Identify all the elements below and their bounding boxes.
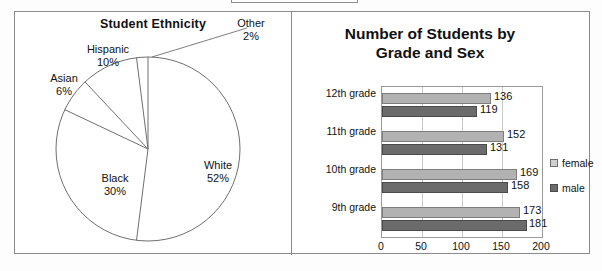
pie-label-white-name: White (204, 159, 232, 171)
legend-label-female: female (562, 157, 594, 169)
pie-chart-panel: Student Ethnicity Hispanic (15, 12, 291, 255)
bar-chart-title: Number of Students by Grade and Sex (300, 24, 560, 62)
pie-label-other-value: 2% (227, 30, 275, 43)
pie-label-other-name: Other (237, 17, 265, 29)
pie-label-asian-name: Asian (50, 72, 78, 84)
pie-label-hispanic-name: Hispanic (87, 43, 129, 55)
legend-item-female: female (550, 157, 594, 169)
bar-value-10th-female: 169 (520, 166, 538, 178)
bar-10th-male (382, 182, 508, 193)
legend-label-male: male (562, 182, 585, 194)
bar-value-10th-male: 158 (511, 179, 529, 191)
bar-group-11th: 11th grade 152 131 (382, 125, 542, 163)
category-label-10th: 10th grade (296, 163, 376, 175)
category-label-11th: 11th grade (296, 125, 376, 137)
bar-chart-title-line1: Number of Students by (300, 24, 560, 43)
bar-group-10th: 10th grade 169 158 (382, 163, 542, 201)
pie-label-hispanic-value: 10% (75, 56, 141, 69)
xtick-200: 200 (532, 240, 550, 252)
bar-9th-female (382, 207, 520, 218)
legend-swatch-male-icon (550, 184, 558, 192)
pie-label-black-name: Black (102, 172, 129, 184)
bar-12th-female (382, 93, 491, 104)
bar-chart-legend: female male (550, 157, 594, 207)
bar-12th-male (382, 106, 477, 117)
figure-frame: Student Ethnicity Hispanic (14, 11, 590, 254)
pie-label-black: Black 30% (87, 172, 143, 197)
bar-9th-male (382, 220, 527, 231)
bar-value-9th-female: 173 (523, 204, 541, 216)
bar-chart-x-axis: 0 50 100 150 200 (381, 240, 543, 256)
cut-off-box-above (231, 0, 358, 3)
scanned-figure-page: Student Ethnicity Hispanic (0, 0, 602, 271)
pie-label-white: White 52% (190, 159, 246, 184)
xtick-100: 100 (452, 240, 470, 252)
pie-label-black-value: 30% (87, 185, 143, 198)
legend-item-male: male (550, 182, 594, 194)
bar-value-11th-male: 131 (490, 141, 508, 153)
bar-chart-title-line2: Grade and Sex (300, 43, 560, 62)
pie-chart-graphic (15, 12, 291, 255)
pie-label-other: Other 2% (227, 17, 275, 42)
bar-value-11th-female: 152 (507, 128, 525, 140)
pie-label-hispanic: Hispanic 10% (75, 43, 141, 68)
xtick-0: 0 (378, 240, 384, 252)
pie-label-asian: Asian 6% (37, 72, 91, 97)
bar-10th-female (382, 169, 517, 180)
bar-value-12th-female: 136 (494, 90, 512, 102)
pie-label-white-value: 52% (190, 172, 246, 185)
bar-value-9th-male: 181 (529, 217, 547, 229)
category-label-12th: 12th grade (296, 87, 376, 99)
bar-value-12th-male: 119 (480, 103, 498, 115)
category-label-9th: 9th grade (296, 201, 376, 213)
bar-11th-male (382, 144, 487, 155)
bar-group-9th: 9th grade 173 181 (382, 201, 542, 239)
xtick-50: 50 (415, 240, 427, 252)
xtick-150: 150 (492, 240, 510, 252)
bar-chart-panel: Number of Students by Grade and Sex 12th… (292, 12, 591, 255)
bar-group-12th: 12th grade 136 119 (382, 87, 542, 125)
bar-chart-plot-area: 12th grade 136 119 11th grade 152 131 10 (381, 86, 543, 238)
bar-11th-female (382, 131, 504, 142)
pie-label-asian-value: 6% (37, 85, 91, 98)
legend-swatch-female-icon (550, 159, 558, 167)
